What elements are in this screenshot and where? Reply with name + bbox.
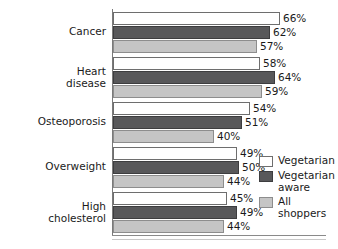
bar [113,57,260,70]
legend-item[interactable]: Vegetarian aware [259,170,338,193]
bar-value-label: 62% [270,26,296,39]
legend-item[interactable]: All shoppers [259,196,338,219]
bar-value-label: 40% [214,130,240,143]
category-label: High cholesterol [0,201,106,224]
bar-value-label: 51% [242,116,268,129]
bar-value-label: 58% [260,57,286,70]
x-axis-baseline-shadow [112,239,326,240]
bar [113,147,237,160]
bar-chart: Cancer66%62%57%Heart disease58%64%59%Ost… [0,0,338,249]
chart-legend: VegetarianVegetarian awareAll shoppers [259,155,338,222]
legend-swatch-icon [259,171,273,182]
bar [113,85,262,98]
bar [113,206,237,219]
bar [113,161,239,174]
bar-value-label: 66% [280,12,306,25]
bar [113,71,275,84]
bar [113,116,242,129]
bar-value-label: 59% [262,85,288,98]
category-label: Overweight [0,161,106,173]
bar [113,26,270,39]
bar [113,102,250,115]
bar [113,220,224,233]
legend-label: Vegetarian aware [278,170,335,193]
bar [113,130,214,143]
legend-swatch-icon [259,156,273,167]
category-label: Heart disease [0,66,106,89]
bar-value-label: 57% [257,40,283,53]
bar [113,12,280,25]
bar-value-label: 44% [224,175,250,188]
bar-value-label: 44% [224,220,250,233]
bar-value-label: 64% [275,71,301,84]
legend-swatch-icon [259,197,273,208]
category-label: Cancer [0,26,106,38]
legend-label: Vegetarian [278,155,335,167]
bar [113,40,257,53]
category-label: Osteoporosis [0,116,106,128]
legend-label: All shoppers [278,196,326,219]
bar-value-label: 54% [250,102,276,115]
bar-value-label: 45% [227,192,253,205]
bar [113,192,227,205]
legend-item[interactable]: Vegetarian [259,155,338,167]
bar [113,175,224,188]
